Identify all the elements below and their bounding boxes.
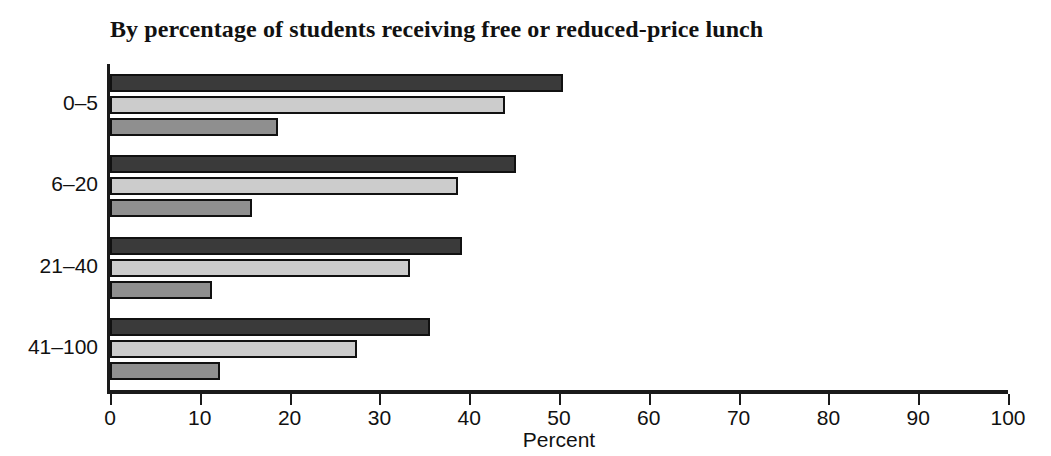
bar-group — [110, 227, 1008, 309]
x-axis-tick-label: 100 — [973, 406, 1043, 430]
bar — [110, 340, 357, 358]
x-axis-tick-label: 80 — [793, 406, 863, 430]
x-axis-tick-mark — [379, 394, 381, 405]
x-axis-title: Percent — [110, 428, 1008, 452]
y-axis-tick-label: 0–5 — [0, 91, 98, 115]
x-axis-tick-mark — [110, 394, 112, 405]
x-axis-tick-label: 40 — [434, 406, 504, 430]
x-axis-tick-mark — [649, 394, 651, 405]
x-axis-tick-mark — [200, 394, 202, 405]
x-axis-tick-mark — [828, 394, 830, 405]
bar — [110, 362, 220, 380]
x-axis-tick-label: 60 — [614, 406, 684, 430]
bar-group — [110, 146, 1008, 228]
chart-title: By percentage of students receiving free… — [110, 16, 1010, 43]
bar — [110, 281, 212, 299]
x-axis-ticks: 0102030405060708090100 — [110, 394, 1008, 405]
chart-figure: By percentage of students receiving free… — [0, 0, 1051, 456]
y-axis-tick-labels: 0–56–2021–4041–100 — [0, 64, 98, 390]
bar — [110, 259, 410, 277]
bar-group — [110, 64, 1008, 146]
x-axis-tick-mark — [290, 394, 292, 405]
x-axis-tick-mark — [1008, 394, 1010, 405]
plot-area — [110, 64, 1008, 390]
x-axis-tick-mark — [918, 394, 920, 405]
bar — [110, 318, 430, 336]
x-axis-tick-mark — [469, 394, 471, 405]
bar-group — [110, 309, 1008, 391]
bar — [110, 74, 563, 92]
y-axis-tick-label: 41–100 — [0, 335, 98, 359]
bar — [110, 199, 252, 217]
bar — [110, 237, 462, 255]
x-axis-tick-mark — [559, 394, 561, 405]
x-axis-tick-label: 30 — [344, 406, 414, 430]
x-axis-tick-label: 50 — [524, 406, 594, 430]
x-axis-tick-label: 90 — [883, 406, 953, 430]
x-axis-tick-label: 70 — [704, 406, 774, 430]
bar — [110, 177, 458, 195]
bar — [110, 155, 516, 173]
y-axis-tick-label: 21–40 — [0, 254, 98, 278]
y-axis-tick-label: 6–20 — [0, 172, 98, 196]
bar — [110, 118, 278, 136]
x-axis-tick-mark — [739, 394, 741, 405]
x-axis-tick-label: 20 — [255, 406, 325, 430]
bar — [110, 96, 505, 114]
x-axis-tick-label: 10 — [165, 406, 235, 430]
x-axis-tick-label: 0 — [75, 406, 145, 430]
